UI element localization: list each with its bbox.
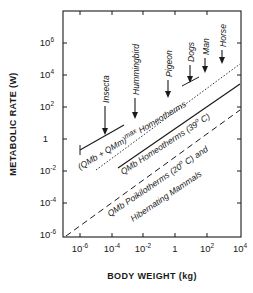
arrow-down-icon [132, 112, 138, 119]
x-axis-title: BODY WEIGHT (kg) [107, 271, 197, 281]
svg-text:Pigeon: Pigeon [164, 50, 174, 77]
svg-text:Man: Man [201, 38, 211, 55]
y-tick-label: 106 [40, 36, 55, 48]
x-tick-label: 10-2 [135, 242, 152, 254]
arrow-down-icon [202, 66, 208, 73]
y-tick-label: 102 [40, 100, 55, 112]
y-tick-label: 10-4 [40, 196, 57, 208]
annotation-horse: Horse [218, 24, 228, 64]
annotation-insecta: Insecta [101, 75, 111, 135]
y-tick-label: 10-2 [40, 164, 57, 176]
svg-text:Horse: Horse [218, 24, 228, 47]
annotation-hummingbird: Hummingbird [131, 44, 141, 119]
x-tick-labels: 10-6 10-4 10-2 1 102 104 [72, 242, 248, 254]
y-axis-title: METABOLIC RATE (W) [8, 72, 18, 175]
annotation-dogs: Dogs [182, 41, 199, 86]
chart: 106 104 102 1 10-2 10-4 10-6 10-6 10-4 1… [0, 0, 253, 293]
arrow-down-icon [165, 91, 171, 98]
x-tick-label: 10-6 [72, 242, 89, 254]
arrow-down-icon [102, 128, 108, 135]
poikilotherms-line [66, 110, 240, 236]
svg-text:Insecta: Insecta [101, 75, 111, 103]
annotation-man: Man [201, 38, 211, 73]
svg-text:Dogs: Dogs [186, 41, 196, 62]
x-tick-label: 1 [172, 243, 177, 254]
x-tick-label: 10-4 [104, 242, 121, 254]
svg-text:Hummingbird: Hummingbird [131, 44, 141, 95]
y-tick-label: 1 [43, 133, 48, 144]
y-tick-label: 104 [40, 68, 55, 80]
x-tick-label: 104 [233, 242, 248, 254]
y-tick-labels: 106 104 102 1 10-2 10-4 10-6 [40, 36, 57, 240]
annotation-pigeon: Pigeon [164, 50, 174, 98]
arrow-down-icon [219, 57, 225, 64]
y-tick-label: 10-6 [40, 228, 57, 240]
x-tick-label: 102 [200, 242, 215, 254]
